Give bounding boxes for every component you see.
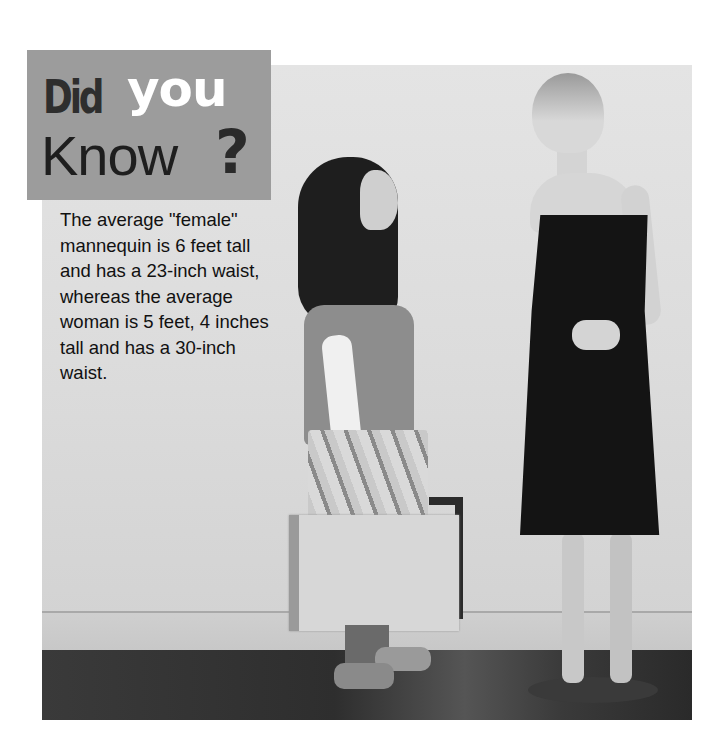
mannequin-hand xyxy=(572,320,620,350)
shopping-bag xyxy=(289,515,459,631)
mannequin-base xyxy=(528,677,658,703)
girl-face xyxy=(360,170,398,230)
mannequin-leg xyxy=(610,533,632,683)
did-you-know-title: Did you Know ? xyxy=(27,50,271,200)
question-mark-icon: ? xyxy=(215,122,250,182)
title-did: Did xyxy=(43,74,101,120)
fact-text: The average "female" mannequin is 6 feet… xyxy=(60,207,280,386)
title-you: you xyxy=(127,64,227,114)
mannequin-head xyxy=(532,73,604,153)
girl-shoe xyxy=(334,663,394,689)
title-know: Know xyxy=(41,128,177,184)
mannequin-dress xyxy=(520,215,665,535)
mannequin-leg xyxy=(562,533,584,683)
